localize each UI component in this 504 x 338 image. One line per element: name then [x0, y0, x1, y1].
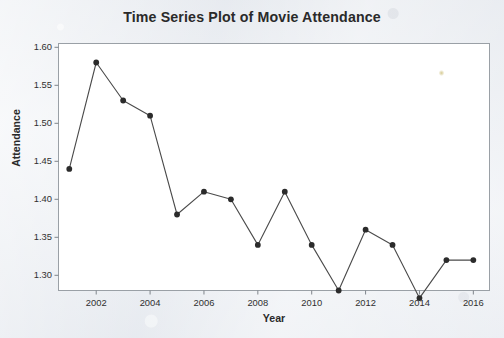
chart-page: Time Series Plot of Movie Attendance 1.3… [0, 0, 504, 338]
data-point-marker [93, 60, 99, 66]
x-tick-label: 2008 [233, 297, 283, 308]
data-point-marker [444, 257, 450, 263]
data-point-marker [255, 242, 261, 248]
y-tick-label: 1.35 [8, 231, 52, 242]
data-point-marker [201, 189, 207, 195]
data-point-marker [66, 166, 72, 172]
x-tick-label: 2016 [448, 297, 498, 308]
x-tick-label: 2006 [179, 297, 229, 308]
data-point-marker [390, 242, 396, 248]
y-tick-label: 1.60 [8, 41, 52, 52]
plot-area: 1.301.351.401.451.501.551.60 20022004200… [0, 0, 504, 338]
x-axis-label: Year [58, 312, 490, 324]
data-point-marker [363, 227, 369, 233]
data-point-marker [336, 288, 342, 294]
plot-frame [59, 44, 490, 291]
y-axis-label: Attendance [10, 98, 22, 178]
y-axis-ticks [55, 47, 59, 275]
data-point-marker [147, 113, 153, 119]
data-point-marker [228, 196, 234, 202]
data-point-marker [470, 257, 476, 263]
data-point-marker [282, 189, 288, 195]
data-point-marker [174, 212, 180, 218]
x-tick-label: 2010 [287, 297, 337, 308]
y-tick-label: 1.30 [8, 269, 52, 280]
x-tick-label: 2002 [71, 297, 121, 308]
y-tick-label: 1.55 [8, 79, 52, 90]
x-tick-label: 2012 [341, 297, 391, 308]
data-point-marker [120, 98, 126, 104]
data-point-marker [309, 242, 315, 248]
x-tick-label: 2014 [394, 297, 444, 308]
line-chart-svg [0, 0, 504, 338]
y-tick-label: 1.40 [8, 193, 52, 204]
x-tick-label: 2004 [125, 297, 175, 308]
